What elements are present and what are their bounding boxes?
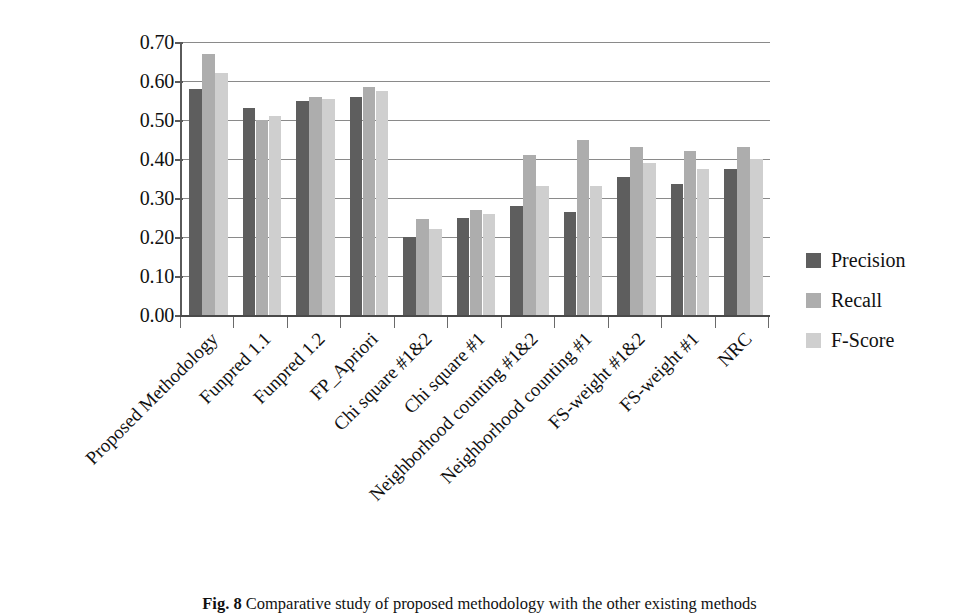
caption-text: Comparative study of proposed methodolog…: [246, 594, 757, 613]
bar-fscore: [322, 99, 335, 315]
bar-group: [182, 42, 235, 315]
bar-fscore: [215, 73, 228, 315]
y-axis-tick-label: 0.30: [112, 188, 174, 208]
bar-fscore: [269, 116, 282, 315]
bar-recall: [630, 147, 643, 315]
bar-group: [610, 42, 663, 315]
legend-item-recall: Recall: [806, 280, 956, 320]
y-axis-labels: 0.700.600.500.400.300.200.100.00: [112, 28, 174, 324]
y-axis-tick-label: 0.20: [112, 227, 174, 247]
bar-recall: [202, 54, 215, 315]
bar-group: [396, 42, 449, 315]
y-axis-tick-label: 0.70: [112, 32, 174, 52]
bar-fscore: [750, 159, 763, 315]
bar-recall: [416, 219, 429, 315]
legend-label: Recall: [831, 289, 882, 312]
bar-recall: [737, 147, 750, 315]
bar-recall: [684, 151, 697, 315]
legend-swatch-fscore-icon: [806, 333, 821, 348]
legend-swatch-precision-icon: [806, 253, 821, 268]
y-axis-tick-label: 0.50: [112, 110, 174, 130]
plot-area: [180, 42, 768, 315]
bar-fscore: [536, 186, 549, 315]
bar-recall: [309, 97, 322, 315]
legend-swatch-recall-icon: [806, 293, 821, 308]
bar-recall: [256, 120, 269, 315]
bar-recall: [470, 210, 483, 315]
bar-precision: [510, 206, 523, 315]
bar-recall: [363, 87, 376, 315]
bar-group: [503, 42, 556, 315]
bar-group: [717, 42, 770, 315]
x-axis-line: [180, 315, 770, 317]
bar-group: [235, 42, 288, 315]
legend-item-fscore: F-Score: [806, 320, 956, 360]
bar-precision: [724, 169, 737, 315]
bar-group: [289, 42, 342, 315]
caption-figure-number: Fig. 8: [202, 594, 241, 613]
legend-label: F-Score: [831, 329, 894, 352]
legend-item-precision: Precision: [806, 240, 956, 280]
bar-group: [342, 42, 395, 315]
bar-precision: [564, 212, 577, 315]
figure-caption: Fig. 8 Comparative study of proposed met…: [0, 594, 959, 614]
y-axis-tick-label: 0.40: [112, 149, 174, 169]
bar-fscore: [429, 229, 442, 315]
bar-group: [449, 42, 502, 315]
bar-precision: [189, 89, 202, 315]
y-axis-tick-label: 0.60: [112, 71, 174, 91]
bar-groups: [182, 42, 770, 315]
bar-precision: [403, 237, 416, 315]
legend-label: Precision: [831, 249, 905, 272]
bar-precision: [243, 108, 256, 315]
bar-fscore: [643, 163, 656, 315]
bar-precision: [671, 184, 684, 315]
bar-precision: [296, 101, 309, 316]
bar-recall: [523, 155, 536, 315]
y-axis-tick-label: 0.10: [112, 266, 174, 286]
bar-fscore: [697, 169, 710, 315]
chart-legend: PrecisionRecallF-Score: [806, 240, 956, 360]
bar-group: [556, 42, 609, 315]
bar-group: [663, 42, 716, 315]
bar-precision: [350, 97, 363, 315]
bar-recall: [577, 140, 590, 316]
bar-fscore: [590, 186, 603, 315]
bar-precision: [457, 218, 470, 316]
bar-fscore: [483, 214, 496, 315]
bar-fscore: [376, 91, 389, 315]
figure-container: 0.700.600.500.400.300.200.100.00 Propose…: [0, 0, 959, 614]
bar-precision: [617, 177, 630, 315]
